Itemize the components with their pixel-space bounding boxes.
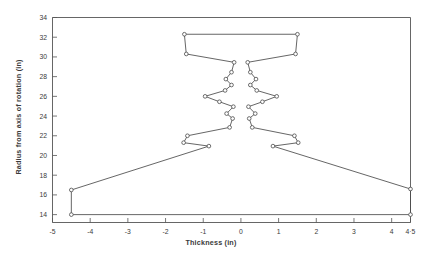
x-tick-label: -4 [87,228,93,235]
x-tick-label: -2 [163,228,169,235]
y-tick-label: 22 [39,132,47,139]
data-point-marker [207,144,211,148]
chart-background [0,0,424,253]
data-point-marker [69,188,73,192]
data-point-marker [296,141,300,145]
x-axis-title: Thickness (in) [185,238,237,247]
data-point-marker [293,134,297,138]
data-point-marker [228,126,232,130]
y-tick-label: 34 [39,14,47,21]
data-point-marker [271,144,275,148]
data-point-marker [69,213,73,217]
data-point-marker [184,52,188,56]
data-point-marker [294,52,298,56]
x-tick-label: 2 [314,228,318,235]
y-tick-label: 20 [39,152,47,159]
data-point-marker [254,77,258,81]
y-axis-title: Radius from axis of rotation (in) [14,59,23,175]
disk-profile-chart: -5-4-3-2-1012344·5 141618202224262830323… [0,0,424,253]
y-tick-label: 18 [39,172,47,179]
data-point-marker [296,32,300,36]
data-point-marker [232,105,236,109]
data-point-marker [247,105,251,109]
data-point-marker [230,83,234,87]
data-point-marker [232,60,236,64]
data-point-marker [409,187,413,191]
x-tick-label: -3 [125,228,131,235]
data-point-marker [255,89,259,93]
y-tick-label: 24 [39,113,47,120]
x-tick-label: 0 [239,228,243,235]
data-point-marker [250,126,254,130]
x-tick-label: 4 [390,228,394,235]
x-tick-label: 1 [277,228,281,235]
x-tick-label: 4·5 [406,228,416,235]
data-point-marker [231,117,235,121]
y-tick-label: 14 [39,211,47,218]
y-tick-label: 32 [39,34,47,41]
x-tick-label: -5 [49,228,55,235]
data-point-marker [225,112,229,116]
y-tick-label: 30 [39,53,47,60]
data-point-marker [183,32,187,36]
data-point-marker [261,100,265,104]
data-point-marker [248,83,252,87]
y-tick-label: 26 [39,93,47,100]
data-point-marker [223,89,227,93]
data-point-marker [253,112,257,116]
data-point-marker [409,213,413,217]
x-tick-label: -1 [200,228,206,235]
data-point-marker [246,60,250,64]
x-tick-label: 3 [352,228,356,235]
data-point-marker [248,70,252,74]
data-point-marker [230,70,234,74]
data-point-marker [182,141,186,145]
data-point-marker [186,134,190,138]
y-tick-label: 28 [39,73,47,80]
y-tick-label: 16 [39,191,47,198]
data-point-marker [203,95,207,99]
data-point-marker [224,77,228,81]
data-point-marker [218,100,222,104]
data-point-marker [275,95,279,99]
data-point-marker [247,117,251,121]
